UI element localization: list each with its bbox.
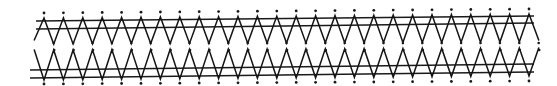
- top-dot: [140, 11, 143, 14]
- middle-lower-dot: [538, 49, 541, 52]
- bottom-dot: [256, 81, 259, 84]
- top-dot: [120, 11, 123, 14]
- top-dot: [392, 9, 395, 12]
- bottom-dot: [101, 82, 104, 85]
- rail-line: [30, 72, 534, 78]
- top-dot: [159, 11, 162, 14]
- middle-lower-dot: [344, 49, 347, 52]
- bottom-dot: [178, 82, 181, 85]
- middle-upper-dot: [91, 42, 94, 45]
- middle-upper-dot: [266, 42, 269, 45]
- middle-upper-dot: [130, 42, 133, 45]
- middle-upper-dot: [169, 42, 172, 45]
- middle-upper-dot: [285, 42, 288, 45]
- middle-lower-dot: [53, 49, 56, 52]
- top-dot: [528, 8, 531, 11]
- middle-upper-dot: [382, 42, 385, 45]
- middle-lower-dot: [499, 49, 502, 52]
- middle-upper-dot: [111, 42, 114, 45]
- middle-lower-dot: [441, 49, 444, 52]
- middle-lower-dot: [208, 49, 211, 52]
- middle-upper-dot: [460, 42, 463, 45]
- bottom-dot: [237, 81, 240, 84]
- middle-upper-dot: [518, 42, 521, 45]
- middle-lower-dot: [286, 49, 289, 52]
- middle-lower-dot: [266, 49, 269, 52]
- middle-lower-dot: [247, 49, 250, 52]
- top-dot: [489, 8, 492, 11]
- middle-lower-dot: [422, 49, 425, 52]
- bottom-dot: [528, 80, 531, 83]
- middle-upper-dot: [52, 42, 55, 45]
- bottom-dot: [372, 81, 375, 84]
- middle-upper-dot: [479, 42, 482, 45]
- top-dot: [353, 9, 356, 12]
- bottom-dot: [489, 80, 492, 83]
- middle-upper-dot: [72, 42, 75, 45]
- top-dot: [372, 9, 375, 12]
- top-dot: [43, 12, 46, 15]
- top-dot: [198, 10, 201, 13]
- bottom-dot: [62, 83, 65, 86]
- top-dot: [314, 9, 317, 12]
- rail-line: [36, 16, 534, 21]
- middle-lower-dot: [169, 49, 172, 52]
- middle-lower-dot: [131, 49, 134, 52]
- top-dot: [178, 11, 181, 14]
- middle-upper-dot: [188, 42, 191, 45]
- middle-lower-dot: [325, 49, 328, 52]
- middle-upper-dot: [402, 42, 405, 45]
- bottom-dot: [314, 81, 317, 84]
- zigzag-stitch-figure: [0, 0, 557, 86]
- bottom-dot: [353, 81, 356, 84]
- middle-lower-dot: [383, 49, 386, 52]
- top-dot: [237, 10, 240, 13]
- bottom-dot: [295, 81, 298, 84]
- middle-lower-dot: [150, 49, 153, 52]
- middle-lower-dot: [363, 49, 366, 52]
- middle-upper-dot: [149, 42, 152, 45]
- top-dot: [508, 8, 511, 11]
- dot-markers: [43, 8, 541, 86]
- top-dot: [217, 10, 220, 13]
- middle-upper-dot: [305, 42, 308, 45]
- bottom-dot: [140, 82, 143, 85]
- bottom-dot: [392, 80, 395, 83]
- middle-upper-dot: [363, 42, 366, 45]
- middle-upper-dot: [499, 42, 502, 45]
- bottom-dot: [450, 80, 453, 83]
- middle-upper-dot: [208, 42, 211, 45]
- bottom-dot: [275, 81, 278, 84]
- bottom-dot: [159, 82, 162, 85]
- middle-lower-dot: [460, 49, 463, 52]
- bottom-dot: [431, 80, 434, 83]
- middle-lower-dot: [189, 49, 192, 52]
- middle-lower-dot: [72, 49, 75, 52]
- bottom-dot: [334, 81, 337, 84]
- middle-upper-dot: [343, 42, 346, 45]
- top-dot: [469, 8, 472, 11]
- top-dot: [256, 10, 259, 13]
- middle-lower-dot: [480, 49, 483, 52]
- top-dot: [450, 8, 453, 11]
- top-dot: [81, 11, 84, 14]
- middle-lower-dot: [111, 49, 114, 52]
- middle-upper-dot: [246, 42, 249, 45]
- bottom-dot: [120, 82, 123, 85]
- middle-lower-dot: [519, 49, 522, 52]
- middle-lower-dot: [92, 49, 95, 52]
- middle-lower-dot: [402, 49, 405, 52]
- middle-upper-dot: [537, 42, 540, 45]
- bottom-dot: [508, 80, 511, 83]
- bottom-dot: [198, 82, 201, 85]
- top-dot: [334, 9, 337, 12]
- top-dot: [101, 11, 104, 14]
- middle-upper-dot: [440, 42, 443, 45]
- bottom-dot: [43, 83, 46, 86]
- middle-lower-dot: [228, 49, 231, 52]
- middle-upper-dot: [227, 42, 230, 45]
- middle-upper-dot: [324, 42, 327, 45]
- stitch-diagram: [0, 0, 557, 86]
- top-dot: [62, 11, 65, 14]
- bottom-dot: [217, 82, 220, 85]
